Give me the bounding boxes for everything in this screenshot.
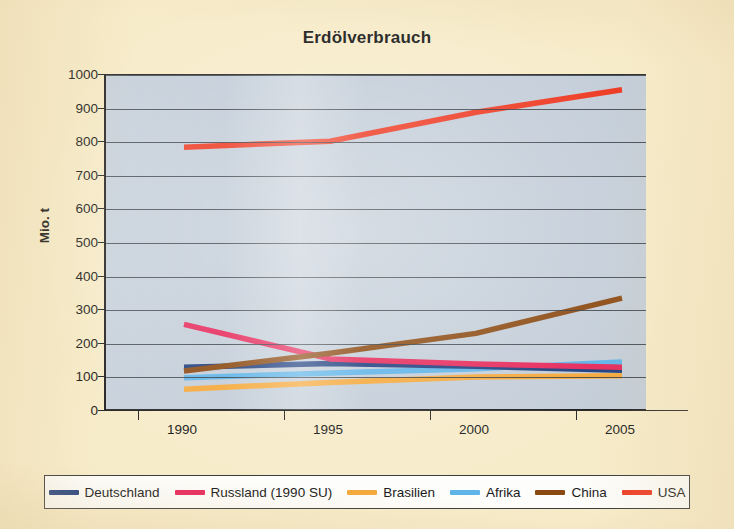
x-tick-label: 1990 xyxy=(147,422,217,437)
y-tick-label: 600 xyxy=(52,201,98,216)
y-tick-label: 1000 xyxy=(52,67,98,82)
y-tick-label: 400 xyxy=(52,269,98,284)
y-tick-mark xyxy=(98,410,104,411)
legend-swatch-icon xyxy=(49,490,79,495)
y-tick-mark xyxy=(98,343,104,344)
y-tick-label: 500 xyxy=(52,235,98,250)
y-axis-tick-labels: 01002003004005006007008009001000 xyxy=(48,74,98,410)
legend-item[interactable]: China xyxy=(535,485,606,500)
y-tick-label: 0 xyxy=(52,403,98,418)
x-tick-label: 1995 xyxy=(293,422,363,437)
x-tick-label: 2005 xyxy=(585,422,655,437)
gridline xyxy=(106,344,646,345)
legend-item[interactable]: Afrika xyxy=(450,485,521,500)
y-tick-label: 900 xyxy=(52,101,98,116)
y-tick-mark xyxy=(98,208,104,209)
x-tick-mark xyxy=(576,411,577,420)
series-line-usa xyxy=(184,90,622,147)
legend-item[interactable]: Russland (1990 SU) xyxy=(175,485,333,500)
legend-item-label: Deutschland xyxy=(85,485,160,500)
legend-swatch-icon xyxy=(347,490,377,495)
x-tick-mark xyxy=(430,411,431,420)
gridline xyxy=(106,109,646,110)
plot-area xyxy=(104,74,646,410)
x-tick-label: 2000 xyxy=(439,422,509,437)
gridline xyxy=(106,75,646,76)
gridline xyxy=(106,243,646,244)
y-tick-label: 300 xyxy=(52,302,98,317)
y-tick-mark xyxy=(98,309,104,310)
x-tick-mark xyxy=(138,411,139,420)
y-tick-mark xyxy=(98,74,104,75)
gridline xyxy=(106,176,646,177)
y-tick-label: 100 xyxy=(52,369,98,384)
x-axis-tick-labels: 1990199520002005 xyxy=(104,422,646,446)
legend-item-label: Brasilien xyxy=(383,485,435,500)
x-tick-mark xyxy=(284,411,285,420)
y-tick-mark xyxy=(98,175,104,176)
gridline xyxy=(106,377,646,378)
legend-swatch-icon xyxy=(175,490,205,495)
legend-swatch-icon xyxy=(450,490,480,495)
y-tick-label: 200 xyxy=(52,336,98,351)
legend-swatch-icon xyxy=(622,490,652,495)
x-axis-line xyxy=(104,410,688,411)
gridline xyxy=(106,277,646,278)
y-tick-mark xyxy=(98,108,104,109)
legend-item[interactable]: Deutschland xyxy=(49,485,160,500)
y-tick-mark xyxy=(98,376,104,377)
legend-item-label: Russland (1990 SU) xyxy=(211,485,333,500)
legend-item-label: USA xyxy=(658,485,686,500)
gridline xyxy=(106,142,646,143)
legend-item[interactable]: USA xyxy=(622,485,686,500)
legend-swatch-icon xyxy=(535,490,565,495)
y-axis-title: Mio. t xyxy=(37,166,52,286)
page-title: Erdölverbrauch xyxy=(0,28,734,48)
legend-item[interactable]: Brasilien xyxy=(347,485,435,500)
chart-page: Erdölverbrauch 0100200300400500600700800… xyxy=(0,0,734,529)
legend-item-label: China xyxy=(571,485,606,500)
legend-item-label: Afrika xyxy=(486,485,521,500)
y-tick-label: 800 xyxy=(52,134,98,149)
y-tick-mark xyxy=(98,276,104,277)
chart-legend: DeutschlandRussland (1990 SU)BrasilienAf… xyxy=(44,475,690,509)
y-tick-mark xyxy=(98,141,104,142)
y-tick-mark xyxy=(98,242,104,243)
gridline xyxy=(106,310,646,311)
y-tick-label: 700 xyxy=(52,168,98,183)
gridline xyxy=(106,209,646,210)
